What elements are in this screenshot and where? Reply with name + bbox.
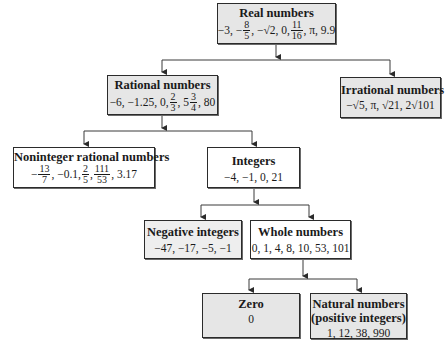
- node-title: Zero: [203, 297, 299, 311]
- node-title: Irrational numbers: [341, 83, 440, 97]
- node-values: 0: [203, 313, 299, 326]
- denominator: 53: [97, 175, 107, 185]
- node-integers: Integers −4, −1, 0, 21: [207, 147, 300, 188]
- node-values: 0, 1, 4, 8, 10, 53, 101: [251, 242, 350, 255]
- node-title: Noninteger rational numbers: [14, 150, 154, 164]
- node-values: −4, −1, 0, 21: [208, 171, 299, 184]
- node-irrational-numbers: Irrational numbers −√5, π, √21, 2√101: [340, 77, 441, 118]
- node-title: Natural numbers: [311, 297, 406, 311]
- values-text: , 80: [198, 96, 215, 109]
- node-title: Negative integers: [145, 225, 241, 239]
- fraction: 23: [170, 92, 177, 113]
- node-title: Integers: [208, 154, 299, 168]
- values-text: −: [31, 168, 38, 181]
- node-rational-numbers: Rational numbers −6, −1.25, 0, 23 , 5 34…: [107, 75, 218, 115]
- values-text: , 5: [178, 96, 190, 109]
- values-text: −3, −: [218, 24, 242, 37]
- node-values: −47, −17, −5, −1: [145, 242, 241, 255]
- node-values: 1, 12, 38, 990: [311, 327, 406, 340]
- node-title: Real numbers: [218, 6, 335, 20]
- node-subtitle: (positive integers): [311, 311, 406, 325]
- values-text: , −√2, 0,: [251, 24, 290, 37]
- node-values: − 137 , −0.1, 25 , 11153 , 3.17: [14, 164, 154, 185]
- node-values: −3, − 85 , −√2, 0, 1116 , π, 9.9: [218, 20, 335, 41]
- node-negative-integers: Negative integers −47, −17, −5, −1: [144, 220, 242, 259]
- node-zero: Zero 0: [202, 293, 300, 338]
- values-text: , 3.17: [111, 168, 137, 181]
- fraction: 11153: [94, 164, 110, 185]
- node-values: −6, −1.25, 0, 23 , 5 34 , 80: [108, 92, 217, 113]
- node-whole-numbers: Whole numbers 0, 1, 4, 8, 10, 53, 101: [250, 220, 351, 259]
- fraction: 25: [82, 164, 89, 185]
- values-text: −6, −1.25, 0,: [110, 96, 169, 109]
- node-natural-numbers: Natural numbers (positive integers) 1, 1…: [310, 293, 407, 339]
- number-classification-diagram: Real numbers −3, − 85 , −√2, 0, 1116 , π…: [0, 0, 445, 352]
- node-title: Rational numbers: [108, 78, 217, 92]
- denominator: 5: [83, 175, 88, 185]
- node-title: Whole numbers: [251, 225, 350, 239]
- values-text: ,: [90, 168, 93, 181]
- fraction: 85: [243, 20, 250, 41]
- denominator: 5: [244, 31, 249, 41]
- node-real-numbers: Real numbers −3, − 85 , −√2, 0, 1116 , π…: [217, 3, 336, 44]
- fraction: 34: [190, 92, 197, 113]
- values-text: , π, 9.9: [304, 24, 336, 37]
- denominator: 3: [171, 103, 176, 113]
- fraction: 1116: [291, 20, 303, 41]
- node-values: −√5, π, √21, 2√101: [341, 99, 440, 112]
- node-noninteger-rational-numbers: Noninteger rational numbers − 137 , −0.1…: [13, 147, 155, 188]
- values-text: , −0.1,: [51, 168, 81, 181]
- denominator: 7: [42, 175, 47, 185]
- fraction: 137: [38, 164, 50, 185]
- denominator: 16: [292, 31, 302, 41]
- denominator: 4: [191, 103, 196, 113]
